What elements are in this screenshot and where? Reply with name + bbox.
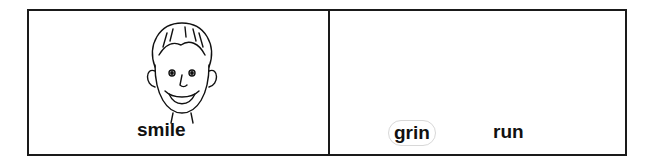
option-grin-circled[interactable]: grin: [388, 120, 436, 146]
smiling-boy-face-icon: [137, 15, 227, 127]
option-run[interactable]: run: [493, 121, 524, 143]
panel-divider: [328, 11, 330, 154]
word-smile: smile: [137, 119, 186, 141]
worksheet-frame: [27, 9, 627, 156]
